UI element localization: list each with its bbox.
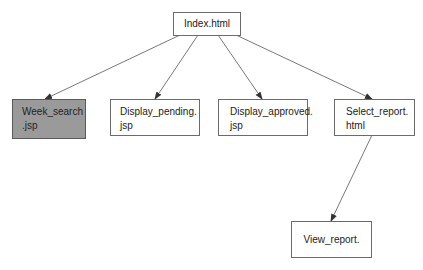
node-label-line2: .jsp [22, 119, 85, 133]
node-label: Index.html [174, 17, 240, 31]
node-label-line2: jsp [120, 119, 199, 133]
edge-index-to-display-approved [218, 35, 262, 99]
node-display-approved-jsp: Display_approved. jsp [218, 99, 308, 136]
node-label-line1: Week_search [22, 105, 85, 119]
node-label-line1: Select_report. [346, 105, 414, 119]
node-label: View_report. [292, 233, 371, 247]
node-label-line1: Display_pending. [120, 105, 199, 119]
edge-select-report-to-view-report [331, 135, 372, 221]
node-label-line2: html [346, 119, 414, 133]
node-week-search-jsp: Week_search .jsp [12, 99, 86, 139]
edge-index-to-display-pending [155, 35, 198, 99]
edge-index-to-week-search [45, 35, 180, 99]
node-select-report-html: Select_report. html [334, 99, 415, 136]
node-view-report: View_report. [291, 221, 372, 258]
edge-index-to-select-report [236, 35, 372, 99]
node-label-line1: Display_approved. [230, 105, 307, 119]
node-display-pending-jsp: Display_pending. jsp [110, 99, 200, 136]
node-index-html: Index.html [173, 12, 241, 36]
node-label-line2: jsp [230, 119, 307, 133]
